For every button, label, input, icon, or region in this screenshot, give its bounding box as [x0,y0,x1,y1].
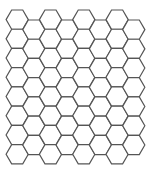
hexagon-cell [123,135,145,154]
hexagon-grid [0,0,154,177]
hexagon-cell [123,78,145,97]
hexagon-cell [123,20,145,39]
hexagon-cell [123,116,145,135]
hexagon-cell [123,58,145,77]
hexagon-cell [123,39,145,58]
hexagon-cell [123,97,145,116]
